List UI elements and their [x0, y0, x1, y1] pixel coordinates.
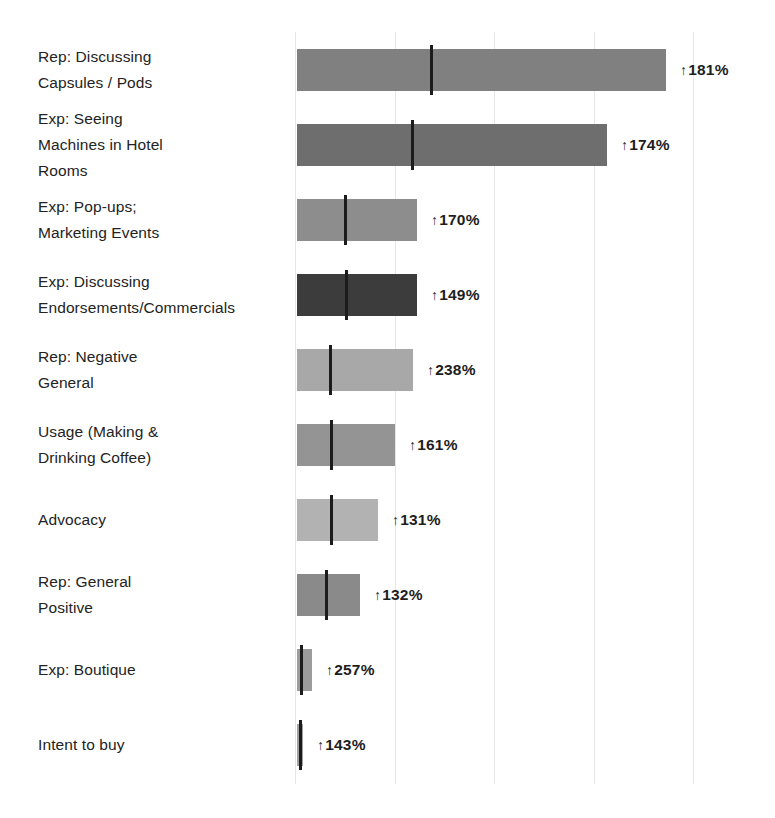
- arrow-up-icon: ↑: [680, 62, 687, 78]
- bar-area: ↑174%: [0, 107, 775, 182]
- bar-value-text: 143%: [325, 736, 365, 753]
- arrow-up-icon: ↑: [326, 662, 333, 678]
- bar[interactable]: [297, 349, 413, 391]
- chart-row: Exp: DiscussingEndorsements/Commercials↑…: [0, 257, 775, 332]
- bar[interactable]: [297, 574, 360, 616]
- bar-value-label: ↑181%: [680, 61, 729, 79]
- bar-benchmark-marker: [299, 720, 302, 770]
- bar-value-text: 149%: [439, 286, 479, 303]
- bar-value-label: ↑149%: [431, 286, 480, 304]
- bar-benchmark-marker: [430, 45, 433, 95]
- bar-value-text: 181%: [688, 61, 728, 78]
- bar-value-text: 161%: [417, 436, 457, 453]
- bar-value-label: ↑170%: [431, 211, 480, 229]
- bar-value-label: ↑238%: [427, 361, 476, 379]
- bar-value-label: ↑143%: [317, 736, 366, 754]
- bar-value-label: ↑257%: [326, 661, 375, 679]
- bar-area: ↑149%: [0, 257, 775, 332]
- bar[interactable]: [297, 199, 417, 241]
- bar-area: ↑257%: [0, 632, 775, 707]
- bar-benchmark-marker: [344, 195, 347, 245]
- arrow-up-icon: ↑: [431, 287, 438, 303]
- chart-row: Rep: NegativeGeneral↑238%: [0, 332, 775, 407]
- bar-value-label: ↑131%: [392, 511, 441, 529]
- bar-benchmark-marker: [345, 270, 348, 320]
- bar[interactable]: [297, 124, 607, 166]
- arrow-up-icon: ↑: [409, 437, 416, 453]
- chart-rows: Rep: DiscussingCapsules / Pods↑181%Exp: …: [0, 32, 775, 782]
- bar-benchmark-marker: [330, 495, 333, 545]
- bar-value-label: ↑174%: [621, 136, 670, 154]
- bar-value-label: ↑161%: [409, 436, 458, 454]
- arrow-up-icon: ↑: [392, 512, 399, 528]
- chart-row: Exp: Boutique↑257%: [0, 632, 775, 707]
- chart-row: Rep: GeneralPositive↑132%: [0, 557, 775, 632]
- bar[interactable]: [297, 49, 666, 91]
- bar-benchmark-marker: [411, 120, 414, 170]
- bar-area: ↑161%: [0, 407, 775, 482]
- bar[interactable]: [297, 274, 417, 316]
- arrow-up-icon: ↑: [431, 212, 438, 228]
- bar-area: ↑143%: [0, 707, 775, 782]
- chart-row: Advocacy↑131%: [0, 482, 775, 557]
- bar-area: ↑132%: [0, 557, 775, 632]
- bar-area: ↑131%: [0, 482, 775, 557]
- arrow-up-icon: ↑: [427, 362, 434, 378]
- bar-value-text: 170%: [439, 211, 479, 228]
- bar-benchmark-marker: [330, 420, 333, 470]
- bar-value-text: 238%: [435, 361, 475, 378]
- chart-row: Intent to buy↑143%: [0, 707, 775, 782]
- bar[interactable]: [297, 499, 378, 541]
- arrow-up-icon: ↑: [317, 737, 324, 753]
- arrow-up-icon: ↑: [374, 587, 381, 603]
- bar-benchmark-marker: [325, 570, 328, 620]
- bar-value-text: 131%: [400, 511, 440, 528]
- bar-benchmark-marker: [329, 345, 332, 395]
- bar-value-label: ↑132%: [374, 586, 423, 604]
- chart-row: Rep: DiscussingCapsules / Pods↑181%: [0, 32, 775, 107]
- bar-value-text: 257%: [334, 661, 374, 678]
- bar-benchmark-marker: [300, 645, 303, 695]
- bar-value-text: 132%: [382, 586, 422, 603]
- bar-area: ↑170%: [0, 182, 775, 257]
- bar-value-text: 174%: [629, 136, 669, 153]
- chart-row: Exp: SeeingMachines in HotelRooms↑174%: [0, 107, 775, 182]
- bar-chart: Rep: DiscussingCapsules / Pods↑181%Exp: …: [0, 0, 775, 818]
- bar-area: ↑181%: [0, 32, 775, 107]
- chart-row: Exp: Pop-ups;Marketing Events↑170%: [0, 182, 775, 257]
- bar-area: ↑238%: [0, 332, 775, 407]
- bar[interactable]: [297, 424, 395, 466]
- arrow-up-icon: ↑: [621, 137, 628, 153]
- chart-row: Usage (Making &Drinking Coffee)↑161%: [0, 407, 775, 482]
